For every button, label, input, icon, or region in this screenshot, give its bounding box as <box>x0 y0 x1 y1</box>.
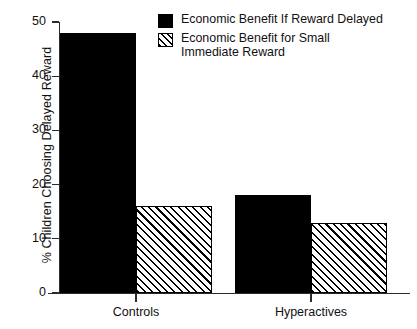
x-axis-line <box>48 293 410 294</box>
y-tick-label: 40 <box>0 68 46 82</box>
y-tick-label: 10 <box>0 231 46 245</box>
y-tick-mark <box>52 238 59 239</box>
y-tick-label: 20 <box>0 177 46 191</box>
y-tick-mark <box>52 21 59 22</box>
y-tick-mark <box>52 130 59 131</box>
legend-label-delayed: Economic Benefit If Reward Delayed <box>181 13 383 27</box>
legend-label-immediate-line1: Economic Benefit for Small <box>181 31 330 45</box>
legend-item-immediate: Economic Benefit for Small Immediate Rew… <box>158 32 413 59</box>
bar-controls-series1 <box>60 33 136 293</box>
legend-item-delayed: Economic Benefit If Reward Delayed <box>158 13 413 28</box>
y-tick-mark <box>52 292 59 293</box>
x-tick-label-controls: Controls <box>113 305 160 319</box>
y-axis-title: % Children Choosing Delayed Reward <box>40 15 54 295</box>
x-tick-label-hyperactives: Hyperactives <box>275 305 347 319</box>
chart-legend: Economic Benefit If Reward Delayed Econo… <box>158 13 413 63</box>
bar-chart: % Children Choosing Delayed Reward 01020… <box>0 0 417 329</box>
x-tick-mark <box>310 294 311 302</box>
bar-controls-series2 <box>136 206 212 293</box>
x-tick-mark <box>135 294 136 302</box>
legend-label-immediate: Economic Benefit for Small Immediate Rew… <box>181 32 330 59</box>
bar-hyperactives-series2 <box>311 223 387 293</box>
y-tick-mark <box>52 76 59 77</box>
legend-label-immediate-line2: Immediate Reward <box>181 45 285 59</box>
y-tick-label: 0 <box>0 285 46 299</box>
y-tick-label: 50 <box>0 14 46 28</box>
bar-hyperactives-series1 <box>235 195 311 293</box>
legend-swatch-hatch-icon <box>158 33 173 47</box>
legend-swatch-solid-icon <box>158 14 173 28</box>
y-tick-label: 30 <box>0 122 46 136</box>
y-tick-mark <box>52 184 59 185</box>
